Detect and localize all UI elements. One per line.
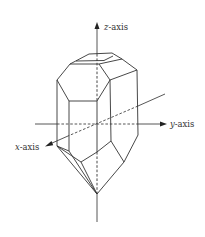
apex-edge-left-outer bbox=[57, 146, 97, 194]
right-inner-vertical bbox=[110, 80, 111, 141]
right-upper-edge bbox=[110, 70, 137, 80]
top-ring-edge-right bbox=[99, 59, 122, 64]
bottom-ring-right bbox=[97, 141, 111, 152]
top-ring-inner bbox=[76, 61, 104, 62]
right-lower-edge bbox=[124, 135, 138, 162]
apex-edge-left-inner bbox=[69, 151, 97, 194]
top-cap-outline bbox=[70, 53, 137, 70]
x-axis-line-back bbox=[138, 94, 165, 106]
x-axis-hidden bbox=[68, 106, 138, 136]
y-axis-arrowhead-icon bbox=[160, 122, 167, 127]
x-axis-line-front bbox=[51, 136, 68, 144]
front-hexagon-face bbox=[57, 64, 110, 101]
x-axis bbox=[45, 94, 165, 147]
z-axis-label: z-axis bbox=[103, 22, 128, 32]
apex-edge-right bbox=[97, 162, 124, 194]
bottom-face-top-edge bbox=[81, 152, 97, 162]
crystal-diagram: z-axis y-axis x-axis bbox=[0, 0, 205, 237]
x-axis-label: x-axis bbox=[15, 142, 39, 152]
bottom-right-facet bbox=[111, 141, 124, 162]
z-axis-arrowhead-icon bbox=[95, 22, 100, 29]
y-axis-label: y-axis bbox=[169, 119, 194, 129]
x-axis-arrowhead-icon bbox=[45, 141, 53, 147]
right-outer-vertical bbox=[137, 70, 138, 135]
top-ring-inner-right bbox=[104, 56, 113, 61]
